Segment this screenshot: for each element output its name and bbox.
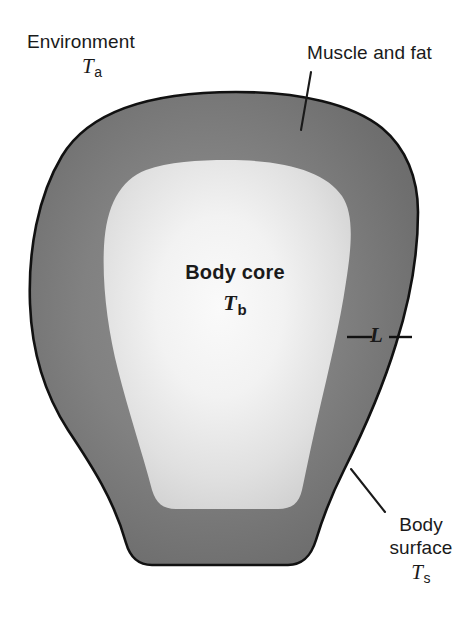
body-surface-temperature-symbol: Ts [375, 561, 467, 590]
environment-temp-letter: T [82, 54, 94, 78]
environment-temperature-symbol: Ta [27, 55, 157, 84]
environment-label: Environment [27, 30, 135, 53]
shell-thickness-label: L [370, 324, 383, 347]
environment-temp-subscript: a [94, 64, 102, 80]
body-core-temp-subscript: b [237, 301, 246, 318]
body-surface-temp-subscript: s [424, 570, 431, 586]
body-core-temp-letter: T [223, 290, 237, 315]
body-surface-label-line2: surface [389, 537, 452, 558]
body-surface-label: Bodysurface [375, 513, 467, 559]
muscle-and-fat-label: Muscle and fat [307, 41, 432, 64]
body-surface-temp-letter: T [411, 560, 423, 584]
body-surface-leader-line [351, 469, 385, 512]
body-surface-label-line1: Body [399, 514, 443, 535]
figure-canvas: Environment Ta Muscle and fat Body core … [0, 0, 470, 628]
body-core-temperature-symbol: Tb [0, 291, 470, 321]
body-core-label: Body core [0, 261, 470, 284]
